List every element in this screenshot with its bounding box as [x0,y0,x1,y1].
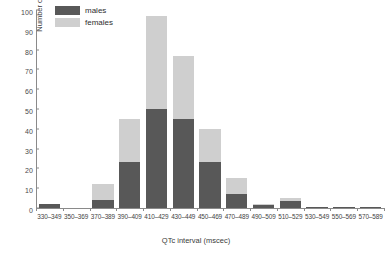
bar-segment-females [119,119,140,163]
x-tick-mark [384,208,385,211]
x-tick-mark [223,208,224,211]
bar-segment-males [39,204,60,208]
x-tick-label: 330–349 [36,213,63,220]
legend-label: females [85,18,113,27]
y-tick-60: 60 [25,80,36,98]
qtc-interval-histogram: 0102030405060708090100 Number of patient… [0,0,392,257]
x-tick-mark [116,208,117,211]
x-tick-mark [357,208,358,211]
bar-segment-males [280,201,301,208]
bar-segment-females [146,16,167,109]
bar-segment-males [226,194,247,208]
y-tick-100: 100 [21,1,36,19]
bar-group[interactable] [253,204,274,208]
y-tick-label: 0 [29,207,36,214]
y-tick-label: 70 [25,68,36,75]
x-tick-label: 490–509 [250,213,277,220]
x-tick-label: 390–409 [116,213,143,220]
x-tick-label: 350–369 [63,213,90,220]
bar-segment-females [199,129,220,163]
legend-item-males[interactable]: males [55,6,113,15]
bar-series-container [36,10,384,208]
x-tick-label: 470–489 [223,213,250,220]
legend-swatch-males [55,6,80,15]
bar-group[interactable] [92,184,113,208]
bar-group[interactable] [360,207,381,208]
y-tick-label: 40 [25,128,36,135]
bar-segment-females [226,178,247,194]
y-tick-0: 0 [29,199,36,217]
bar-segment-males [92,200,113,208]
x-tick-label: 570–589 [357,213,384,220]
bar-segment-males [146,109,167,208]
bar-group[interactable] [119,119,140,208]
x-tick-mark [90,208,91,211]
y-tick-50: 50 [25,100,36,118]
x-tick-label: 550–569 [330,213,357,220]
x-tick-mark [36,208,37,211]
y-tick-30: 30 [25,140,36,158]
y-tick-40: 40 [25,120,36,138]
bar-group[interactable] [226,178,247,208]
bar-segment-females [92,184,113,200]
y-tick-10: 10 [25,179,36,197]
x-tick-label: 410–429 [143,213,170,220]
bar-segment-males [173,119,194,208]
bar-group[interactable] [146,16,167,208]
x-tick-label: 430–449 [170,213,197,220]
y-tick-label: 30 [25,148,36,155]
x-axis-line [36,208,385,209]
legend-label: males [85,6,106,15]
chart-legend: malesfemales [55,6,113,30]
x-tick-label: 450–469 [197,213,224,220]
x-tick-mark [277,208,278,211]
y-tick-label: 50 [25,108,36,115]
bar-segment-males [119,162,140,208]
y-tick-label: 100 [21,9,36,16]
bar-segment-males [333,207,354,208]
x-tick-mark [63,208,64,211]
x-tick-mark [330,208,331,211]
bar-group[interactable] [39,204,60,208]
bar-segment-males [253,205,274,208]
bar-segment-females [173,56,194,119]
bar-group[interactable] [333,207,354,208]
x-tick-mark [197,208,198,211]
bar-group[interactable] [173,56,194,208]
legend-swatch-females [55,18,80,27]
y-tick-label: 20 [25,167,36,174]
bar-segment-males [306,207,327,208]
y-tick-70: 70 [25,60,36,78]
y-tick-20: 20 [25,159,36,177]
x-tick-mark [250,208,251,211]
bar-group[interactable] [280,198,301,208]
x-tick-mark [170,208,171,211]
y-tick-label: 60 [25,88,36,95]
x-axis-title: QTc interval (mscec) [0,236,392,245]
x-tick-label: 530–549 [304,213,331,220]
bar-segment-males [360,207,381,208]
bar-group[interactable] [306,207,327,208]
x-tick-mark [143,208,144,211]
x-tick-label: 370–389 [90,213,117,220]
legend-item-females[interactable]: females [55,18,113,27]
x-tick-mark [304,208,305,211]
y-tick-label: 10 [25,187,36,194]
x-tick-label: 510–529 [277,213,304,220]
bar-group[interactable] [199,129,220,208]
bar-segment-males [199,162,220,208]
